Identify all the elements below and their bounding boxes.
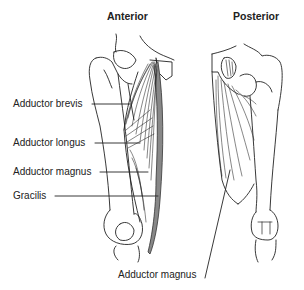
posterior-thigh <box>205 44 282 278</box>
anterior-thigh <box>55 34 174 262</box>
anatomy-illustration <box>0 0 304 290</box>
